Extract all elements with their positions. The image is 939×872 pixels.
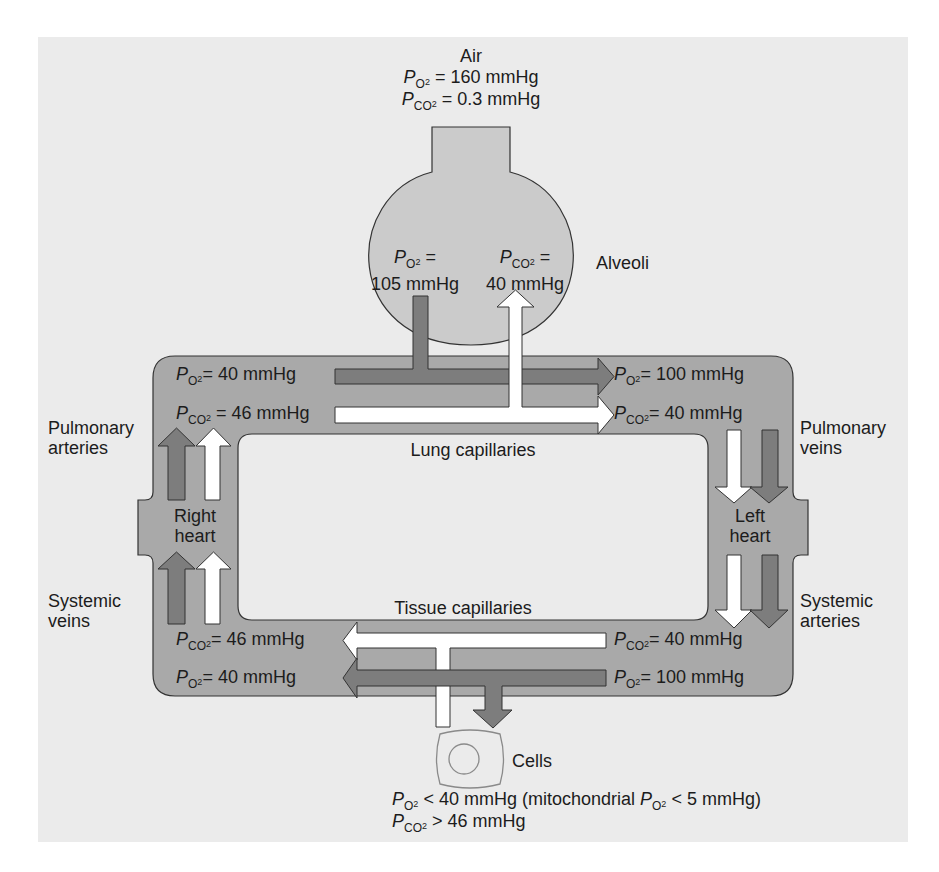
cells-po2-value: < 40 mmHg (mitochondrial (423, 789, 640, 809)
gas-subscript: O (652, 799, 661, 813)
equals-sign: = (540, 247, 551, 267)
lung-capillaries-label: Lung capillaries (373, 440, 573, 460)
tissue-in-po2-label: PO2= 100 mmHg (614, 667, 744, 694)
cells-pco2-value: > 46 mmHg (432, 811, 526, 831)
tissue-out-pco2-label: PCO2= 46 mmHg (176, 629, 305, 656)
gas-subscript: CO (512, 257, 530, 271)
mitochondrial-po2-value: < 5 mmHg) (671, 789, 761, 809)
gas-subscript: O (626, 374, 635, 388)
pressure-symbol: P (392, 789, 404, 809)
tissue-out-pco2-value: = 46 mmHg (211, 629, 305, 649)
gas-subscript: O (188, 677, 197, 691)
gas-subscript: CO (414, 99, 432, 113)
pressure-symbol: P (176, 629, 188, 649)
gas-subscript-2: 2 (661, 799, 666, 809)
gas-subscript-2: 2 (530, 257, 535, 267)
gas-subscript-2: 2 (413, 799, 418, 809)
alveoli-label: Alveoli (596, 253, 649, 273)
lung-out-pco2-label: PCO2= 40 mmHg (614, 403, 743, 430)
tissue-in-pco2-label: PCO2= 40 mmHg (614, 629, 743, 656)
pressure-symbol: P (176, 403, 188, 423)
gas-exchange-diagram: Air PO2 = 160 mmHg PCO2 = 0.3 mmHg PO2 =… (0, 0, 939, 872)
label-line: heart (145, 526, 245, 546)
gas-subscript: O (406, 257, 415, 271)
cells-label: Cells (512, 751, 552, 771)
tissue-in-po2-value: = 100 mmHg (640, 667, 744, 687)
equals-sign: = (425, 247, 436, 267)
alveoli-pco2-label: PCO2 = 40 mmHg (475, 247, 575, 294)
gas-subscript-2: 2 (425, 77, 430, 87)
systemic-veins-label: Systemic veins (48, 591, 121, 631)
lung-in-pco2-value: = 46 mmHg (216, 403, 310, 423)
pressure-symbol: P (176, 667, 188, 687)
pressure-symbol: P (392, 811, 404, 831)
gas-subscript-2: 2 (422, 821, 427, 831)
systemic-arteries-label: Systemic arteries (800, 591, 873, 631)
pressure-symbol: P (394, 247, 406, 267)
pressure-symbol: P (614, 364, 626, 384)
lung-in-po2-label: PO2= 40 mmHg (176, 364, 296, 391)
lung-in-pco2-label: PCO2 = 46 mmHg (176, 403, 310, 430)
gas-subscript: CO (188, 413, 206, 427)
label-line: Pulmonary (800, 418, 886, 438)
gas-subscript: O (626, 677, 635, 691)
pressure-symbol: P (402, 89, 414, 109)
pressure-symbol: P (614, 629, 626, 649)
right-heart-label: Right heart (145, 506, 245, 546)
pulmonary-veins-label: Pulmonary veins (800, 418, 886, 458)
pressure-symbol: P (614, 403, 626, 423)
label-line: veins (800, 438, 886, 458)
air-pco2-label: PCO2 = 0.3 mmHg (351, 89, 591, 116)
lung-in-po2-value: = 40 mmHg (202, 364, 296, 384)
air-pco2-value: = 0.3 mmHg (442, 89, 541, 109)
air-po2-value: = 160 mmHg (435, 67, 539, 87)
lung-out-pco2-value: = 40 mmHg (649, 403, 743, 423)
lung-out-po2-value: = 100 mmHg (640, 364, 744, 384)
label-line: Pulmonary (48, 418, 134, 438)
pulmonary-arteries-label: Pulmonary arteries (48, 418, 134, 458)
pressure-symbol: P (176, 364, 188, 384)
alveoli-po2-label: PO2 = 105 mmHg (365, 247, 465, 294)
pressure-symbol: P (500, 247, 512, 267)
pressure-symbol: P (640, 789, 652, 809)
gas-subscript: CO (404, 821, 422, 835)
label-line: Left (700, 506, 800, 526)
tissue-out-po2-value: = 40 mmHg (202, 667, 296, 687)
label-line: veins (48, 611, 121, 631)
left-heart-label: Left heart (700, 506, 800, 546)
pressure-symbol: P (404, 67, 416, 87)
gas-subscript: CO (626, 413, 644, 427)
gas-subscript: CO (626, 639, 644, 653)
gas-subscript: O (188, 374, 197, 388)
label-line: arteries (48, 438, 134, 458)
lung-out-po2-label: PO2= 100 mmHg (614, 364, 744, 391)
gas-subscript-2: 2 (206, 413, 211, 423)
tissue-out-po2-label: PO2= 40 mmHg (176, 667, 296, 694)
label-line: arteries (800, 611, 873, 631)
label-line: heart (700, 526, 800, 546)
gas-subscript-2: 2 (432, 99, 437, 109)
label-line: Right (145, 506, 245, 526)
tissue-in-pco2-value: = 40 mmHg (649, 629, 743, 649)
tissue-capillaries-label: Tissue capillaries (363, 598, 563, 618)
diagram-graphics (0, 0, 939, 872)
air-label: Air (391, 46, 551, 66)
label-line: Systemic (800, 591, 873, 611)
gas-subscript: CO (188, 639, 206, 653)
label-line: Systemic (48, 591, 121, 611)
gas-subscript-2: 2 (415, 257, 420, 267)
pressure-symbol: P (614, 667, 626, 687)
alveoli-po2-value: 105 mmHg (365, 274, 465, 294)
cells-pco2-label: PCO2 > 46 mmHg (392, 811, 526, 838)
alveoli-pco2-value: 40 mmHg (475, 274, 575, 294)
